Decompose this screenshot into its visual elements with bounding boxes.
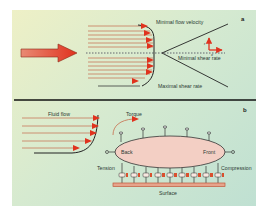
panel-b-letter: b xyxy=(243,107,247,113)
cone-upper xyxy=(162,24,228,53)
surface-bar xyxy=(113,183,225,187)
panel-a: r x Minimal flow velocity Minimal shear … xyxy=(21,16,245,89)
boundary-profile xyxy=(34,115,98,153)
axis-r-label: r xyxy=(204,41,206,46)
back-label: Back xyxy=(121,149,133,155)
torque-label: Torque xyxy=(126,111,142,117)
surface-label: Surface xyxy=(159,190,177,196)
diagram-canvas: r x Minimal flow velocity Minimal shear … xyxy=(0,0,268,216)
panel-a-letter: a xyxy=(241,16,245,22)
max-shear-label: Maximal shear rate xyxy=(158,83,202,89)
compression-label: Compression xyxy=(221,165,252,171)
min-shear-label: Minimal shear rate xyxy=(178,55,221,61)
profile-arrowheads xyxy=(132,23,154,84)
inflow-arrow-icon xyxy=(21,44,77,62)
min-velocity-label: Minimal flow velocity xyxy=(156,19,204,25)
panel-b: b Fluid flow Torque Back Front xyxy=(22,107,252,196)
axes-icon xyxy=(209,38,222,50)
tension-label: Tension xyxy=(97,165,115,171)
flow-lines xyxy=(88,26,153,86)
front-label: Front xyxy=(203,149,216,155)
fluid-flow-label: Fluid flow xyxy=(48,111,70,117)
